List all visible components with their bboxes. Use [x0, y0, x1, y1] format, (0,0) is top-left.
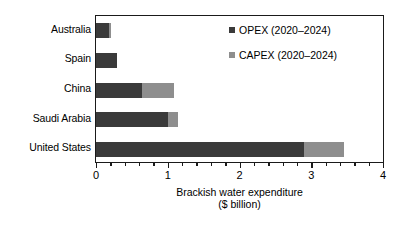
x-axis-minor-tick	[283, 163, 284, 166]
x-axis-tick	[168, 163, 169, 168]
x-axis-minor-tick	[340, 163, 341, 166]
x-axis-tick-label: 1	[156, 169, 180, 182]
bar-segment-opex	[96, 53, 117, 68]
x-axis-minor-tick	[268, 163, 269, 166]
bar-segment-opex	[96, 142, 304, 157]
x-axis-minor-tick	[254, 163, 255, 166]
x-axis-minor-tick	[182, 163, 183, 166]
x-axis-tick-label: 0	[84, 169, 108, 182]
legend-label: OPEX (2020–2024)	[239, 24, 331, 36]
y-axis-label-spain: Spain	[3, 53, 91, 64]
x-axis-minor-tick	[196, 163, 197, 166]
legend: OPEX (2020–2024)CAPEX (2020–2024)	[229, 24, 379, 74]
x-axis-tick	[311, 163, 312, 168]
x-axis-title-line-1: Brackish water expenditure	[95, 186, 384, 198]
bar-segment-capex	[168, 112, 178, 127]
x-axis-minor-tick	[139, 163, 140, 166]
x-axis-tick-label: 4	[371, 169, 395, 182]
legend-item-capex: CAPEX (2020–2024)	[229, 49, 379, 61]
x-axis-title: Brackish water expenditure($ billion)	[95, 186, 384, 210]
x-axis-tick	[383, 163, 384, 168]
bar-segment-capex	[142, 83, 174, 98]
legend-label: CAPEX (2020–2024)	[239, 49, 337, 61]
x-axis-minor-tick	[354, 163, 355, 166]
x-axis-minor-tick	[369, 163, 370, 166]
legend-swatch-icon	[229, 27, 235, 33]
bar-china	[96, 83, 174, 98]
bar-australia	[96, 23, 111, 38]
bar-united-states	[96, 142, 344, 157]
brackish-water-expenditure-chart: AustraliaSpainChinaSaudi ArabiaUnited St…	[0, 0, 405, 226]
y-axis-label-united-states: United States	[3, 142, 91, 153]
legend-item-opex: OPEX (2020–2024)	[229, 24, 379, 36]
x-axis-minor-tick	[326, 163, 327, 166]
y-axis-label-china: China	[3, 83, 91, 94]
y-axis-label-saudi-arabia: Saudi Arabia	[3, 113, 91, 124]
x-axis-minor-tick	[110, 163, 111, 166]
x-axis-minor-tick	[297, 163, 298, 166]
legend-swatch-icon	[229, 52, 235, 58]
bar-saudi-arabia	[96, 112, 178, 127]
y-axis-labels: AustraliaSpainChinaSaudi ArabiaUnited St…	[0, 0, 91, 226]
x-axis-tick	[96, 163, 97, 168]
x-axis-tick-label: 2	[228, 169, 252, 182]
bar-segment-capex	[109, 23, 111, 38]
x-axis-title-line-2: ($ billion)	[95, 198, 384, 210]
bar-spain	[96, 53, 117, 68]
x-axis-minor-tick	[125, 163, 126, 166]
x-axis-minor-tick	[153, 163, 154, 166]
bar-segment-capex	[304, 142, 344, 157]
x-axis-tick-label: 3	[299, 169, 323, 182]
bar-segment-opex	[96, 83, 142, 98]
y-axis-label-australia: Australia	[3, 24, 91, 35]
x-axis-minor-tick	[211, 163, 212, 166]
bar-segment-opex	[96, 23, 109, 38]
bar-segment-opex	[96, 112, 168, 127]
x-axis-tick	[240, 163, 241, 168]
x-axis-minor-tick	[225, 163, 226, 166]
